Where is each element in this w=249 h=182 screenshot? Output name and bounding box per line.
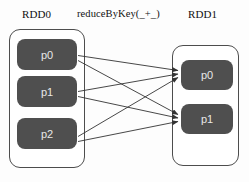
shuffle-edge: [78, 122, 178, 142]
diagram-canvas: RDD0 reduceByKey(_+_) RDD1 p0 p1 p2 p0 p…: [0, 0, 249, 182]
target-rdd-title: RDD1: [188, 8, 217, 20]
shuffle-edge: [78, 56, 178, 71]
source-partition-p0: p0: [17, 39, 77, 70]
target-partition-p1: p1: [181, 104, 233, 134]
operation-title: reduceByKey(_+_): [77, 8, 160, 19]
source-rdd-title: RDD0: [22, 8, 51, 20]
source-partition-p2: p2: [17, 118, 77, 149]
shuffle-edge: [78, 74, 178, 92]
shuffle-edge: [78, 97, 178, 119]
shuffle-edge: [78, 78, 178, 137]
source-partition-p1: p1: [17, 76, 77, 107]
target-partition-p0: p0: [181, 60, 233, 90]
shuffle-edge: [78, 61, 178, 115]
